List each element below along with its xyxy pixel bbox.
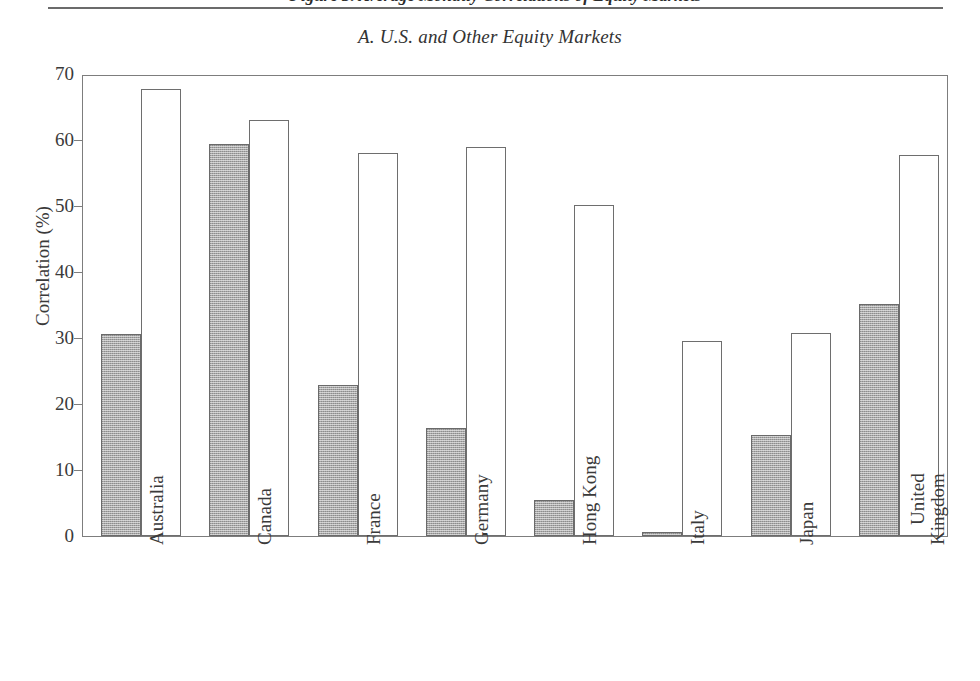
y-axis-label: Correlation (%) [32, 126, 54, 406]
bar-germany-shaded [426, 428, 466, 536]
y-tick-mark [74, 140, 83, 141]
bar-italy-shaded [642, 532, 682, 536]
x-axis-label-line: Germany [472, 474, 492, 545]
bar-france-shaded [318, 385, 358, 536]
panel-title: A. U.S. and Other Equity Markets [0, 26, 980, 48]
x-axis-label-line: Australia [147, 475, 167, 545]
x-axis-label-united-kingdom: UnitedKingdom [908, 473, 948, 545]
y-tick-mark [74, 404, 83, 405]
y-tick-mark [74, 74, 83, 75]
bar-italy-open [682, 341, 722, 536]
x-axis-label-line: France [364, 493, 384, 545]
x-axis-label-line: United [908, 473, 928, 545]
bar-france-open [358, 153, 398, 536]
x-axis-label-germany: Germany [472, 474, 492, 545]
x-axis-label-italy: Italy [688, 510, 708, 545]
x-axis-label-line: Hong Kong [580, 456, 600, 545]
plot-area: 010203040506070 [82, 75, 948, 537]
bar-hong-kong-shaded [534, 500, 574, 536]
bar-japan-shaded [751, 435, 791, 536]
y-tick-mark [74, 470, 83, 471]
y-tick-label: 40 [55, 261, 74, 283]
y-tick-mark [74, 338, 83, 339]
bar-canada-shaded [209, 144, 249, 536]
y-tick-mark [74, 536, 83, 537]
y-tick-mark [74, 272, 83, 273]
figure-page: Figure 3. Average Monthly Correlations o… [0, 0, 980, 681]
y-tick-label: 30 [55, 327, 74, 349]
bar-canada-open [249, 120, 289, 536]
y-tick-mark [74, 206, 83, 207]
x-axis-label-japan: Japan [797, 502, 817, 545]
x-axis-label-france: France [364, 493, 384, 545]
y-tick-label: 60 [55, 129, 74, 151]
x-axis-label-australia: Australia [147, 475, 167, 545]
x-axis-label-hong-kong: Hong Kong [580, 456, 600, 545]
running-head: Figure 3. Average Monthly Correlations o… [48, 0, 943, 6]
y-tick-label: 10 [55, 459, 74, 481]
y-tick-label: 70 [55, 63, 74, 85]
bar-united-kingdom-shaded [859, 304, 899, 536]
bar-australia-open [141, 89, 181, 536]
x-axis-label-line: Kingdom [928, 473, 948, 545]
header-rule [48, 7, 943, 9]
y-tick-label: 50 [55, 195, 74, 217]
y-tick-label: 20 [55, 393, 74, 415]
bar-australia-shaded [101, 334, 141, 536]
y-tick-label: 0 [65, 525, 75, 547]
x-axis-label-canada: Canada [255, 488, 275, 545]
x-axis-label-line: Japan [797, 502, 817, 545]
x-axis-label-line: Italy [688, 510, 708, 545]
x-axis-label-line: Canada [255, 488, 275, 545]
